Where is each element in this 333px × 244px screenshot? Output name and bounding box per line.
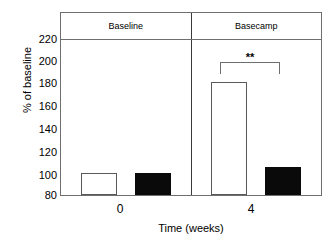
y-tick-label: 100 xyxy=(11,170,57,181)
y-tick-label: 160 xyxy=(11,101,57,112)
panel-label-basecamp: Basecamp xyxy=(191,13,322,39)
bar-chart: % of baseline 220 200 180 160 140 120 10… xyxy=(0,0,333,244)
y-tick-label: 180 xyxy=(11,78,57,89)
x-tick-label-4: 4 xyxy=(231,202,271,216)
plot-area: Baseline Basecamp xyxy=(60,12,322,196)
panel-baseline xyxy=(61,40,191,195)
bar-basecamp-open xyxy=(211,82,247,195)
y-tick-label: 200 xyxy=(11,56,57,67)
y-tick-label: 80 xyxy=(11,190,57,201)
x-tick-label-0: 0 xyxy=(100,202,140,216)
y-axis-tick-labels: 220 200 180 160 140 120 100 80 xyxy=(9,0,57,244)
panel-label-baseline: Baseline xyxy=(61,13,191,39)
significance-annotation: ** xyxy=(214,52,286,74)
bar-basecamp-filled xyxy=(265,167,301,195)
y-tick-label: 140 xyxy=(11,124,57,135)
panel-header-strip: Baseline Basecamp xyxy=(61,13,321,40)
bar-baseline-filled xyxy=(135,173,171,195)
significance-bracket xyxy=(220,62,280,74)
bar-baseline-open xyxy=(81,173,117,195)
y-tick-label: 220 xyxy=(11,34,57,45)
y-tick-label: 120 xyxy=(11,147,57,158)
x-axis-title: Time (weeks) xyxy=(60,222,322,234)
